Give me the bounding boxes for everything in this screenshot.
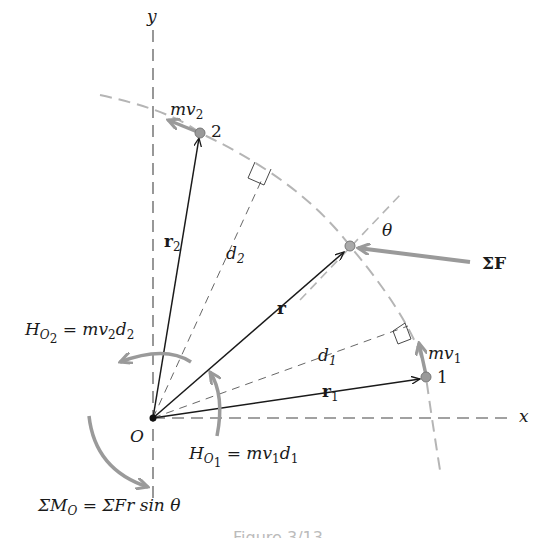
moment-equation: ΣMO = ΣFr sin θ (38, 497, 180, 517)
figure-caption: Figure 3/13 (0, 528, 556, 538)
H-O2-equation: HO2 = mv2d2 (25, 321, 134, 345)
particle-r (345, 241, 355, 251)
d1-line (153, 326, 408, 418)
H-O1-equation: HO1 = mv1d1 (189, 445, 298, 469)
mv1-arrow (419, 343, 426, 375)
r-label: r (277, 300, 286, 317)
mv1-label: mv1 (428, 345, 461, 365)
origin-dot (150, 415, 157, 422)
force-arrow (358, 248, 470, 262)
mv2-label: mv2 (170, 101, 203, 121)
r1-vector (153, 379, 420, 418)
point-1-label: 1 (437, 369, 448, 386)
H-O2-arc (120, 354, 191, 363)
theta-label: θ (382, 222, 392, 239)
diagram-canvas: y x O mv2 2 θ ΣF mv1 1 r2 r r1 d2 d1 HO2… (0, 0, 556, 538)
point-2-label: 2 (211, 123, 222, 140)
force-label: ΣF (482, 255, 506, 272)
d2-line (153, 177, 263, 418)
d2-label: d2 (226, 245, 245, 265)
H-O1-arc (210, 372, 220, 436)
r1-label: r1 (322, 383, 339, 403)
origin-label: O (130, 428, 144, 445)
particle-2 (195, 128, 205, 138)
d1-label: d1 (318, 347, 337, 367)
right-angle-1b (393, 323, 411, 339)
particle-1 (421, 372, 431, 382)
trajectory-path (100, 95, 440, 470)
r2-label: r2 (164, 233, 181, 253)
x-axis-label: x (519, 408, 529, 425)
r2-vector (153, 138, 199, 418)
r-vector (153, 252, 344, 418)
y-axis-label: y (147, 8, 157, 25)
